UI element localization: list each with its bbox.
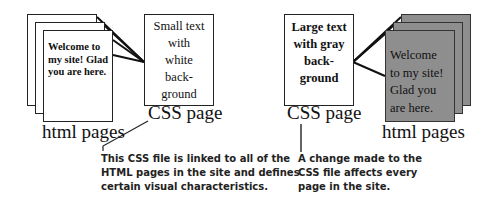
right-caption: A change made to the CSS file affects ev… [298,152,422,194]
html-page-front: Welcome to my site! Glad you are here. [43,30,113,122]
css-box-text: Small text with white back- ground [145,18,213,103]
left-caption: This CSS file is linked to all of the HT… [101,152,300,194]
right-html-pages-label: html pages [382,122,465,141]
right-css-box: Large text with gray back- ground [284,14,354,106]
html-page-text: Welcome to my site! Glad you are here. [390,47,443,117]
left-html-pages-label: html pages [42,122,125,141]
left-css-box: Small text with white back- ground [144,14,214,106]
right-css-page-label: CSS page [287,103,361,122]
left-css-page-label: CSS page [148,103,222,122]
css-box-text: Large text with gray back- ground [285,19,353,87]
html-page-front: Welcome to my site! Glad you are here. [385,30,455,122]
html-page-text: Welcome to my site! Glad you are here. [48,41,108,79]
